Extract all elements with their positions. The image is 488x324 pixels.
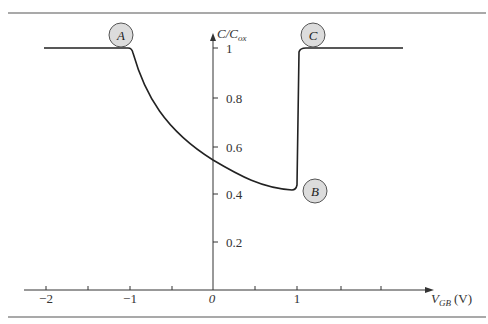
- cv-chart: −2 −1 0 1 VGB(V) 1 0.8 0.6 0.4 0.2 C/Cox…: [0, 0, 488, 324]
- y-tick-label: 0.2: [226, 235, 242, 250]
- svg-text:A: A: [116, 28, 125, 43]
- marker-b: B: [303, 179, 327, 203]
- svg-text:C: C: [309, 28, 318, 43]
- x-axis: −2 −1 0 1 VGB(V): [24, 286, 472, 308]
- y-tick-label: 0.8: [226, 91, 242, 106]
- x-tick-label: 1: [294, 291, 301, 306]
- cv-curve: [44, 48, 403, 190]
- x-tick-label: 0: [209, 291, 216, 306]
- y-axis-label: C/Cox: [217, 26, 246, 43]
- x-axis-label: VGB(V): [431, 291, 472, 308]
- y-axis-arrow-icon: [210, 33, 216, 41]
- marker-a: A: [109, 23, 133, 47]
- y-tick-label: 0.4: [226, 187, 243, 202]
- y-axis: 1 0.8 0.6 0.4 0.2 C/Cox: [210, 26, 246, 290]
- y-tick-label: 1: [226, 41, 233, 56]
- svg-text:B: B: [311, 184, 319, 199]
- y-tick-label: 0.6: [226, 140, 243, 155]
- marker-c: C: [301, 23, 325, 47]
- x-tick-label: −1: [123, 291, 137, 306]
- x-tick-label: −2: [39, 291, 53, 306]
